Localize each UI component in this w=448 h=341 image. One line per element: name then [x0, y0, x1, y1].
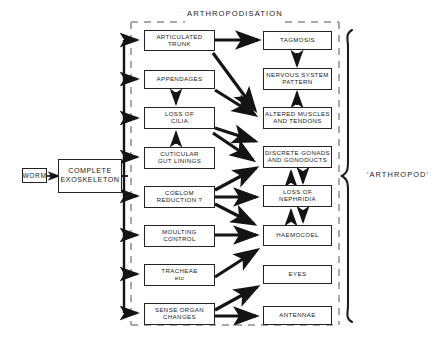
cross-column-arrows: [213, 40, 258, 316]
title-arthropodisation: ARTHROPODISATION: [185, 10, 285, 19]
box-worm: WORM: [22, 168, 47, 183]
box-complete-exoskeleton: COMPLETE EXOSKELETON: [58, 159, 122, 193]
box-eyes: EYES: [263, 265, 332, 284]
box-haemocoel: HAEMOCOEL: [263, 225, 332, 246]
box-tracheae: TRACHEAE etc: [144, 264, 215, 286]
plus-sign: +: [48, 172, 52, 179]
box-tagmosis: TAGMOSIS: [263, 31, 332, 50]
box-cuticular-gut-linings: CUTICULAR GUT LININGS: [144, 147, 215, 169]
diagram-canvas: WORM + COMPLETE EXOSKELETON ARTICULATED …: [0, 0, 448, 341]
box-articulated-trunk: ARTICULATED TRUNK: [144, 30, 215, 51]
box-altered-muscles-and-tendons: ALTERED MUSCLES AND TENDONS: [263, 107, 332, 129]
box-loss-of-nephridia: LOSS OF NEPHRIDIA: [263, 185, 332, 207]
box-moulting-control: MOULTING CONTROL: [144, 225, 215, 247]
outcome-brace: [342, 30, 352, 322]
box-discrete-gonads-and-gonoducts: DISCRETE GONADS AND GONODUCTS: [263, 146, 332, 168]
box-nervous-system-pattern: NERVOUS SYSTEM PATTERN: [263, 68, 332, 90]
box-appendages: APPENDAGES: [144, 70, 215, 89]
label-arthropod-outcome: 'ARTHROPOD': [367, 171, 429, 180]
box-sense-organ-changes: SENSE ORGAN CHANGES: [144, 303, 215, 325]
box-antennae: ANTENNAE: [263, 306, 332, 325]
box-loss-of-cilia: LOSS OF CILIA: [144, 107, 215, 129]
box-coelom-reduction: COELOM REDUCTION ?: [144, 186, 215, 208]
